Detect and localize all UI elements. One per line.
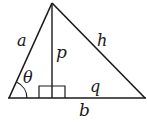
- label-theta: θ: [23, 68, 33, 87]
- label-q: q: [90, 77, 100, 96]
- label-b: b: [79, 100, 90, 120]
- label-a: a: [17, 31, 27, 50]
- label-p: p: [56, 42, 67, 62]
- triangle-diagram: a p h θ q b: [0, 0, 147, 122]
- label-h: h: [97, 31, 107, 50]
